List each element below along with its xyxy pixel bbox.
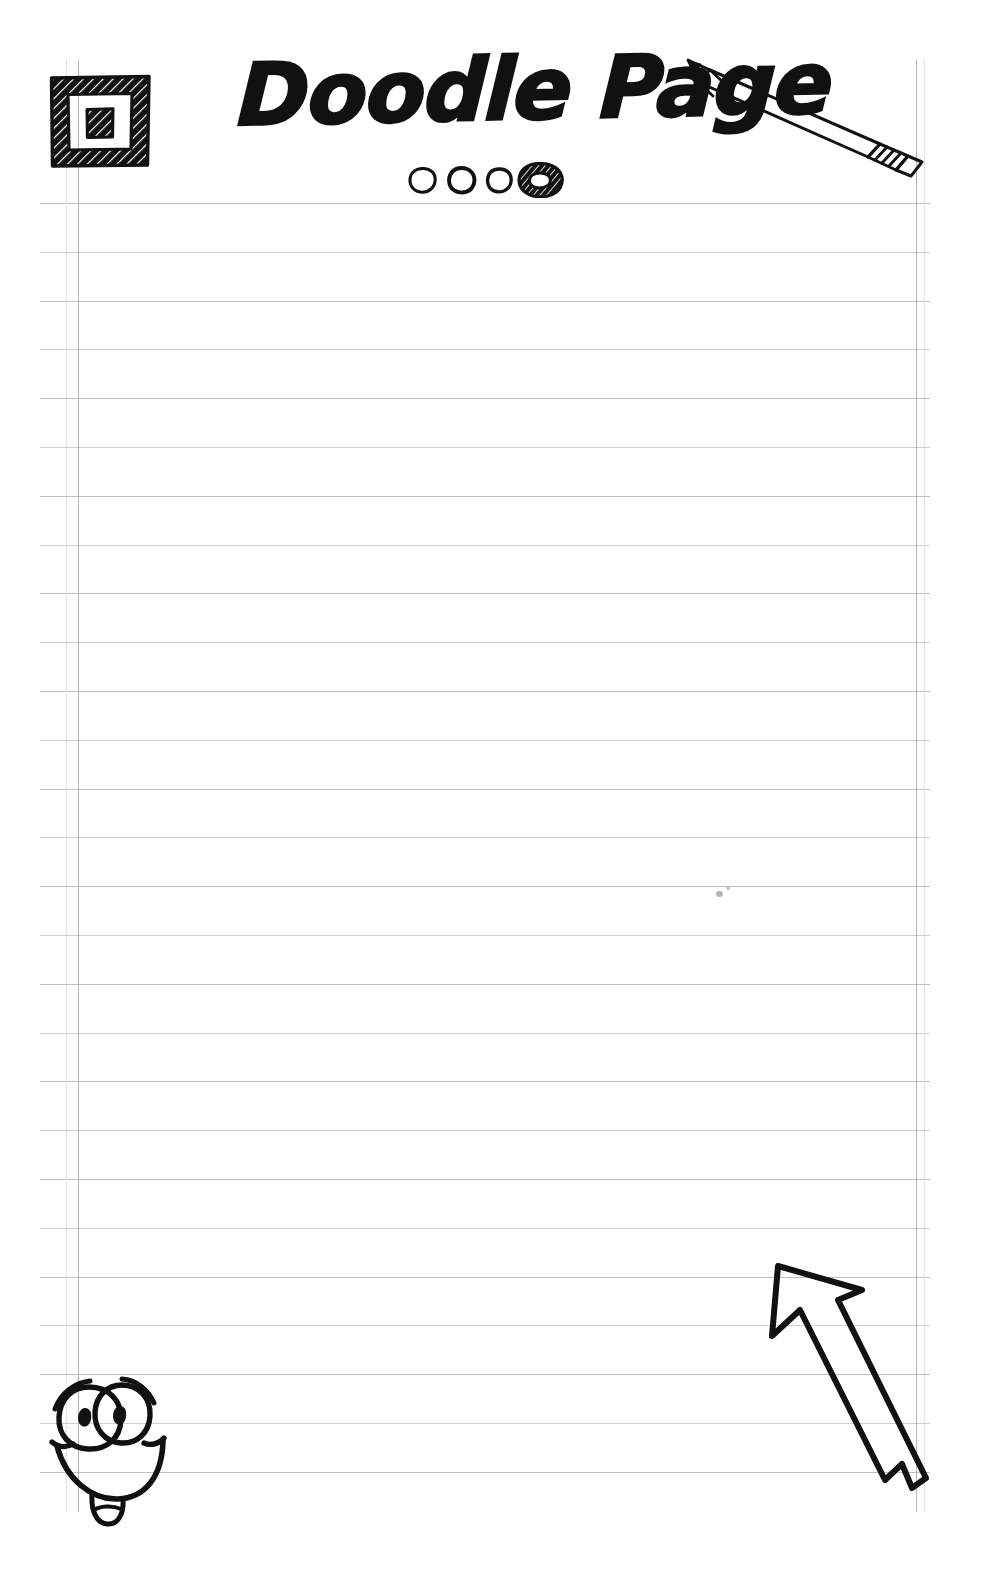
doodle-page: Doodle Page bbox=[0, 0, 989, 1595]
title-dot-3 bbox=[488, 169, 512, 192]
title-dot-4-filled bbox=[519, 163, 562, 196]
left-margin-dotted bbox=[66, 60, 67, 1512]
pencil-doodle bbox=[668, 48, 938, 178]
title-dot-1 bbox=[410, 168, 435, 192]
smiley-face-doodle bbox=[44, 1368, 194, 1528]
title-dot-2 bbox=[449, 168, 474, 193]
page-title-text: Doodle Page bbox=[236, 42, 741, 138]
stray-pencil-speck-secondary bbox=[726, 886, 730, 890]
page-header: Doodle Page bbox=[0, 0, 989, 205]
stray-pencil-speck bbox=[716, 891, 723, 897]
title-dots-row bbox=[404, 162, 574, 198]
nested-square-logo bbox=[48, 64, 152, 168]
arrow-doodle bbox=[740, 1248, 940, 1510]
page-title: Doodle Page bbox=[236, 52, 736, 167]
